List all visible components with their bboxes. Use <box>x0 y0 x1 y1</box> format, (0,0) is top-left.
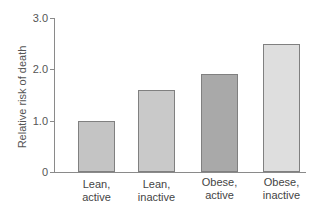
y-tick-label: 2.0 <box>8 63 48 75</box>
x-tick-label-line: inactive <box>127 191 187 204</box>
x-tick-label: Lean,active <box>67 178 127 204</box>
x-axis-baseline <box>54 172 306 173</box>
y-axis-line <box>54 18 55 172</box>
x-tick-label: Obese,active <box>190 176 250 202</box>
y-tick <box>50 18 54 19</box>
y-axis-title: Relative risk of death <box>16 46 28 149</box>
bar-lean-inactive <box>138 90 175 172</box>
x-tick-label-line: active <box>67 191 127 204</box>
bar-obese-inactive <box>263 44 300 172</box>
y-tick-label: 0 <box>8 166 48 178</box>
y-tick <box>50 121 54 122</box>
bar-lean-active <box>78 121 115 172</box>
bar-chart: Relative risk of death 01.02.03.0 Lean,a… <box>0 0 314 210</box>
y-tick-label: 1.0 <box>8 115 48 127</box>
x-tick-label-line: active <box>190 189 250 202</box>
y-tick-label: 3.0 <box>8 12 48 24</box>
x-tick-label-line: Obese, <box>190 176 250 189</box>
x-tick-label-line: Lean, <box>67 178 127 191</box>
x-tick-label-line: Obese, <box>252 176 312 189</box>
x-tick-label-line: Lean, <box>127 178 187 191</box>
x-tick-label: Lean,inactive <box>127 178 187 204</box>
y-tick <box>50 69 54 70</box>
x-tick-label-line: inactive <box>252 189 312 202</box>
x-tick-label: Obese,inactive <box>252 176 312 202</box>
bar-obese-active <box>201 74 238 172</box>
